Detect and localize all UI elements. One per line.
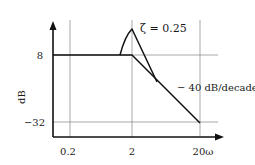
x-axis-arrow-icon: [215, 134, 224, 141]
x-tick-2: 2: [129, 146, 135, 157]
y-axis-label: dB: [16, 90, 27, 104]
zeta-annotation: ζ = 0.25: [140, 22, 187, 35]
y-axis-arrow-icon: [50, 21, 57, 30]
y-tick-8: 8: [37, 50, 43, 61]
x-tick-0.2: 0.2: [60, 146, 76, 157]
slope-annotation: − 40 dB/decade: [177, 82, 255, 93]
x-tick-20-omega: 20ω: [193, 146, 214, 157]
bode-magnitude-chart: ζ = 0.25 − 40 dB/decade 8 −32 dB 0.2 2 2…: [0, 0, 255, 165]
y-tick-minus32: −32: [24, 117, 45, 128]
